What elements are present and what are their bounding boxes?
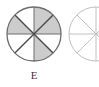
figure-caption-label: E bbox=[0, 69, 68, 82]
primary-circle-group bbox=[7, 7, 61, 61]
figure-root: E bbox=[0, 0, 99, 87]
secondary-circle-group bbox=[69, 7, 99, 61]
